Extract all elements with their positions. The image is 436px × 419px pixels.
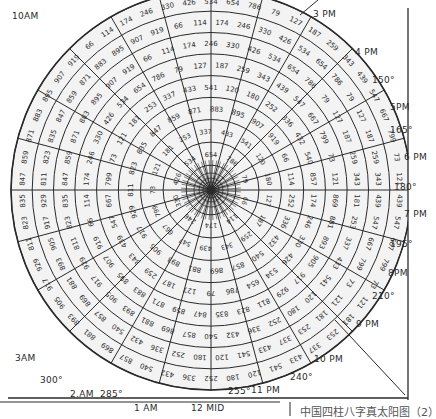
svg-text:336: 336	[181, 372, 196, 382]
svg-text:811: 811	[127, 183, 135, 196]
svg-text:114: 114	[83, 193, 92, 208]
svg-text:343: 343	[373, 172, 382, 186]
svg-text:343: 343	[352, 172, 361, 186]
svg-text:439: 439	[199, 243, 212, 252]
svg-text:120: 120	[215, 352, 229, 361]
svg-text:174: 174	[215, 19, 229, 28]
svg-text:929: 929	[40, 194, 49, 208]
svg-text:534: 534	[204, 0, 218, 6]
svg-text:174: 174	[205, 221, 217, 229]
degree-label: 210°	[372, 291, 395, 301]
time-label: 10AM	[12, 11, 39, 21]
degree-label: 255°	[228, 386, 251, 396]
svg-text:114: 114	[193, 19, 207, 28]
svg-text:799: 799	[104, 172, 113, 186]
svg-text:181: 181	[352, 194, 361, 208]
svg-text:246: 246	[204, 40, 218, 48]
svg-text:180: 180	[193, 352, 207, 361]
time-label: 9 PM	[356, 319, 379, 329]
svg-text:654: 654	[205, 151, 217, 159]
svg-text:439: 439	[395, 194, 404, 208]
svg-text:73: 73	[149, 186, 157, 194]
degree-label: 300°	[40, 375, 63, 385]
time-label: 11 PM	[251, 385, 280, 395]
svg-text:811: 811	[40, 172, 49, 186]
degree-label: 150°	[372, 75, 395, 85]
svg-text:667: 667	[104, 194, 113, 208]
degree-label: 285°	[100, 389, 123, 399]
svg-text:121: 121	[330, 172, 339, 186]
degree-label: 165°	[390, 125, 413, 135]
time-label: 4 PM	[355, 47, 378, 57]
degree-label: 180°	[394, 182, 417, 192]
time-label: 7 PM	[404, 209, 427, 219]
time-label: 3 PM	[313, 9, 336, 19]
svg-text:73: 73	[392, 152, 401, 162]
time-label: 2.AM	[70, 389, 94, 399]
svg-text:174: 174	[308, 194, 317, 209]
svg-text:541: 541	[204, 84, 217, 92]
svg-text:835: 835	[61, 194, 70, 208]
svg-text:869: 869	[330, 194, 339, 208]
svg-text:174: 174	[83, 172, 92, 187]
svg-text:857: 857	[308, 172, 317, 186]
svg-text:180: 180	[226, 372, 240, 382]
svg-text:337: 337	[199, 128, 212, 137]
svg-text:847: 847	[61, 172, 70, 186]
svg-text:439: 439	[373, 194, 382, 208]
svg-text:835: 835	[215, 309, 229, 318]
time-label: 5PM	[390, 102, 410, 112]
time-label: 3AM	[15, 353, 36, 363]
degree-label: 240°	[290, 372, 313, 382]
svg-text:883: 883	[210, 105, 224, 114]
time-label: 12 MID	[191, 403, 224, 413]
time-label: 10 PM	[314, 354, 343, 364]
svg-text:847: 847	[19, 172, 28, 186]
svg-text:540: 540	[204, 332, 217, 340]
svg-text:869: 869	[210, 266, 224, 275]
svg-text:252: 252	[204, 374, 217, 382]
degree-label: 195°	[390, 239, 413, 249]
svg-text:127: 127	[193, 62, 207, 71]
time-label: 6 PM	[404, 152, 427, 162]
time-label: 1 AM	[134, 403, 158, 413]
svg-text:79: 79	[207, 289, 216, 297]
figure-caption: 中国四柱八字真太阳图（2）	[300, 403, 436, 419]
time-label: 8PM	[388, 268, 408, 278]
svg-text:835: 835	[19, 194, 28, 208]
svg-text:187: 187	[215, 62, 229, 71]
svg-text:847: 847	[193, 309, 207, 318]
